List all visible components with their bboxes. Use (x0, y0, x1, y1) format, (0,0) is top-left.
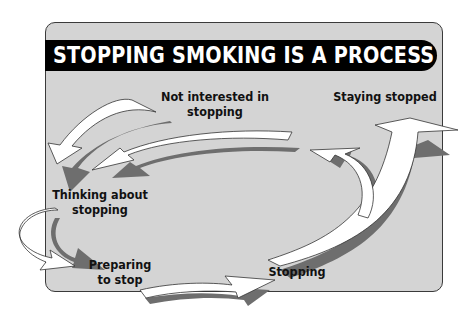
stage-label-line2: stopping (157, 104, 274, 119)
stage-not-interested: Not interested in stopping (157, 89, 274, 119)
stage-label-line2: stopping (51, 202, 150, 217)
arrow-inner-loop (310, 148, 373, 218)
stage-label-line1: Stopping (266, 264, 329, 279)
cycle-arrows (0, 0, 474, 317)
stage-label-line1: Thinking about (51, 187, 150, 202)
stage-label-line1: Preparing (84, 257, 156, 272)
arrow-thinking-to-preparing (19, 208, 75, 270)
stage-staying-stopped: Staying stopped (331, 89, 439, 104)
stage-preparing: Preparing to stop (84, 257, 156, 287)
stage-stopping: Stopping (266, 264, 329, 279)
stage-thinking: Thinking about stopping (51, 187, 150, 217)
stage-label-line2: to stop (84, 272, 156, 287)
stage-label-line1: Not interested in (157, 89, 274, 104)
stage-label-line1: Staying stopped (331, 89, 439, 104)
arrow-not-interested-to-thinking (48, 99, 156, 164)
